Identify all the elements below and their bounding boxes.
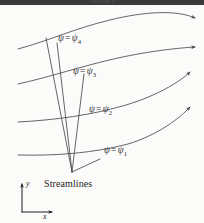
streamline-curve-psi3 xyxy=(18,47,195,84)
x-axis-label: x xyxy=(43,212,47,221)
streamline-ray-right xyxy=(72,74,84,172)
label-psi-2: ψ=ψ2 xyxy=(89,104,112,116)
streamlines-figure: CHAPTER 2 ψ=ψ4 ψ=ψ xyxy=(0,0,204,223)
label-psi-4-equals: = xyxy=(64,33,72,43)
label-psi-4: ψ=ψ4 xyxy=(58,33,81,45)
label-psi-3-equals: = xyxy=(79,66,87,76)
streamline-ray-lower xyxy=(72,159,100,172)
label-psi-4-index: 4 xyxy=(78,38,82,45)
streamlines-caption: Streamlines xyxy=(44,178,92,189)
label-psi-1-index: 1 xyxy=(124,150,128,157)
label-psi-3: ψ=ψ3 xyxy=(73,66,96,78)
streamline-curve-psi4 xyxy=(18,13,195,49)
label-psi-3-index: 3 xyxy=(93,71,97,78)
label-psi-1: ψ=ψ1 xyxy=(104,145,127,157)
label-psi-2-index: 2 xyxy=(109,109,113,116)
y-axis-label: y xyxy=(26,179,30,188)
label-psi-2-equals: = xyxy=(95,104,103,114)
label-psi-1-equals: = xyxy=(110,145,118,155)
